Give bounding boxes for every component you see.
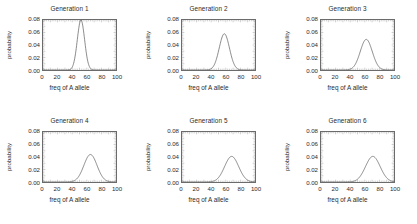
y-axis-title: probability [281, 131, 291, 183]
x-axis-tick-labels: 020406080100 [181, 186, 256, 195]
panel-title: Generation 4 [0, 117, 139, 124]
axis-minor-ticks [182, 20, 255, 70]
probability-curve [321, 39, 394, 70]
x-tick-label: 100 [251, 186, 261, 192]
distribution-curve-plot [321, 132, 394, 182]
y-axis-tick-labels: 0.000.020.040.060.08 [294, 19, 318, 71]
x-tick-label: 0 [40, 186, 43, 192]
plot-frame [320, 19, 395, 71]
y-tick-label: 0.06 [306, 141, 318, 147]
y-tick-label: 0.02 [28, 55, 40, 61]
x-axis-tick-labels: 020406080100 [320, 74, 395, 83]
plot-frame [42, 131, 117, 183]
y-tick-label: 0.08 [167, 128, 179, 134]
axis-minor-ticks [43, 20, 116, 70]
probability-curve [43, 20, 116, 70]
x-tick-label: 0 [318, 186, 321, 192]
y-tick-label: 0.00 [167, 68, 179, 74]
x-tick-label: 40 [69, 186, 76, 192]
y-tick-label: 0.04 [306, 42, 318, 48]
plot-frame [42, 19, 117, 71]
x-tick-label: 20 [332, 186, 339, 192]
panel-title: Generation 2 [139, 5, 278, 12]
panel-title: Generation 3 [278, 5, 417, 12]
panel-generation-1: Generation 1probability0.000.020.040.060… [0, 0, 139, 112]
panel-generation-4: Generation 4probability0.000.020.040.060… [0, 112, 139, 224]
x-tick-label: 60 [84, 186, 91, 192]
distribution-curve-plot [182, 20, 255, 70]
y-axis-tick-labels: 0.000.020.040.060.08 [16, 19, 40, 71]
x-tick-label: 100 [251, 74, 261, 80]
x-tick-label: 40 [69, 74, 76, 80]
x-tick-label: 0 [318, 74, 321, 80]
y-tick-label: 0.08 [28, 16, 40, 22]
x-axis-tick-labels: 020406080100 [320, 186, 395, 195]
x-tick-label: 20 [54, 74, 61, 80]
y-tick-label: 0.02 [167, 167, 179, 173]
y-tick-label: 0.02 [306, 167, 318, 173]
x-tick-label: 60 [362, 74, 369, 80]
y-axis-title: probability [142, 131, 152, 183]
panel-generation-2: Generation 2probability0.000.020.040.060… [139, 0, 278, 112]
y-tick-label: 0.04 [167, 42, 179, 48]
x-axis-tick-labels: 020406080100 [42, 74, 117, 83]
axis-minor-ticks [182, 132, 255, 182]
distribution-curve-plot [43, 20, 116, 70]
y-axis-title: probability [3, 19, 13, 71]
x-tick-label: 100 [112, 74, 122, 80]
plot-frame [320, 131, 395, 183]
x-tick-label: 80 [238, 186, 245, 192]
distribution-curve-plot [321, 20, 394, 70]
panel-title: Generation 6 [278, 117, 417, 124]
y-tick-label: 0.02 [28, 167, 40, 173]
y-tick-label: 0.06 [28, 29, 40, 35]
x-tick-label: 20 [193, 186, 200, 192]
distribution-curve-plot [182, 132, 255, 182]
x-tick-label: 100 [390, 186, 400, 192]
y-tick-label: 0.00 [28, 180, 40, 186]
plot-frame [181, 131, 256, 183]
panel-title: Generation 5 [139, 117, 278, 124]
y-axis-title: probability [3, 131, 13, 183]
x-tick-label: 0 [179, 186, 182, 192]
y-axis-tick-labels: 0.000.020.040.060.08 [16, 131, 40, 183]
generation-panel-grid: Generation 1probability0.000.020.040.060… [0, 0, 417, 224]
panel-generation-6: Generation 6probability0.000.020.040.060… [278, 112, 417, 224]
x-axis-tick-labels: 020406080100 [181, 74, 256, 83]
x-tick-label: 60 [223, 74, 230, 80]
y-tick-label: 0.06 [306, 29, 318, 35]
x-tick-label: 100 [112, 186, 122, 192]
x-tick-label: 40 [347, 74, 354, 80]
x-tick-label: 0 [179, 74, 182, 80]
x-tick-label: 20 [54, 186, 61, 192]
x-axis-title: freq of A allele [278, 196, 417, 203]
x-tick-label: 100 [390, 74, 400, 80]
y-tick-label: 0.02 [306, 55, 318, 61]
x-axis-title: freq of A allele [0, 84, 139, 91]
x-tick-label: 0 [40, 74, 43, 80]
x-axis-tick-labels: 020406080100 [42, 186, 117, 195]
x-tick-label: 40 [208, 186, 215, 192]
x-axis-title: freq of A allele [278, 84, 417, 91]
probability-curve [43, 155, 116, 183]
y-tick-label: 0.06 [28, 141, 40, 147]
y-axis-tick-labels: 0.000.020.040.060.08 [294, 131, 318, 183]
x-tick-label: 40 [208, 74, 215, 80]
y-tick-label: 0.00 [306, 68, 318, 74]
y-tick-label: 0.06 [167, 29, 179, 35]
y-axis-title: probability [281, 19, 291, 71]
y-axis-tick-labels: 0.000.020.040.060.08 [155, 19, 179, 71]
x-tick-label: 20 [332, 74, 339, 80]
y-tick-label: 0.08 [167, 16, 179, 22]
x-tick-label: 20 [193, 74, 200, 80]
x-axis-title: freq of A allele [139, 84, 278, 91]
x-axis-title: freq of A allele [139, 196, 278, 203]
x-tick-label: 60 [84, 74, 91, 80]
distribution-curve-plot [43, 132, 116, 182]
y-tick-label: 0.04 [28, 42, 40, 48]
y-tick-label: 0.04 [306, 154, 318, 160]
x-tick-label: 60 [362, 186, 369, 192]
x-tick-label: 40 [347, 186, 354, 192]
x-tick-label: 80 [238, 74, 245, 80]
y-tick-label: 0.08 [306, 128, 318, 134]
